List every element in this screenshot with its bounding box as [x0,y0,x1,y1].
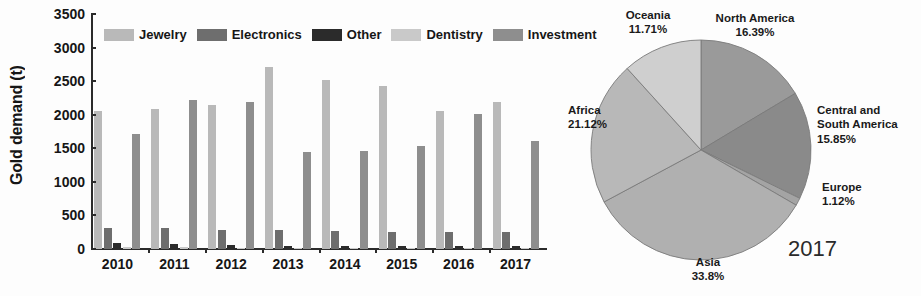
pie-chart-svg [560,0,921,296]
bar-electronics-2016 [445,232,453,249]
y-axis-label: Gold demand (t) [2,0,32,250]
bar-plot-area [91,14,546,249]
bar-dentistry-2016 [464,248,472,250]
bar-other-2012 [227,245,235,249]
bar-jewelry-2011 [151,109,159,249]
bar-jewelry-2016 [436,111,444,249]
x-tick-mark-2012 [205,248,207,253]
bar-jewelry-2012 [208,105,216,249]
bar-electronics-2015 [388,232,396,249]
bar-jewelry-2014 [322,80,330,249]
legend-swatch-jewelry [104,29,134,41]
y-tick-mark-1500 [91,147,96,149]
bar-jewelry-2017 [493,102,501,249]
x-tick-label-2016: 2016 [443,256,474,272]
pie-label-europe-name: Europe [822,180,912,194]
bar-investment-2014 [360,151,368,249]
x-tick-mark-2016 [432,248,434,253]
x-tick-label-2011: 2011 [159,256,189,272]
legend-swatch-electronics [197,29,227,41]
pie-label-central-south-america-name-2: South America [817,117,921,131]
bar-electronics-2014 [331,231,339,249]
pie-label-oceania: Oceania 11.71% [598,8,698,37]
x-tick-mark-2011 [148,248,150,253]
legend-label-dentistry: Dentistry [426,27,482,42]
bar-chart-panel: Gold demand (t) 050010001500200025003000… [0,0,560,296]
pie-chart-panel: Oceania 11.71% North America 16.39% Cent… [560,0,921,296]
pie-label-asia: Asia 33.8% [670,255,746,284]
bar-other-2014 [341,246,349,249]
y-tick-mark-1000 [91,181,96,183]
legend-item-electronics[interactable]: Electronics [197,27,302,42]
legend-swatch-investment [493,29,523,41]
bar-investment-2015 [417,146,425,249]
bar-investment-2012 [246,102,254,249]
pie-label-north-america-name: North America [695,11,815,25]
legend-item-other[interactable]: Other [312,27,382,42]
x-tick-label-2013: 2013 [272,256,303,272]
bar-electronics-2012 [218,230,226,249]
y-tick-mark-500 [91,214,96,216]
pie-label-oceania-value: 11.71% [598,22,698,36]
y-tick-label-1500: 1500 [54,141,91,155]
bar-dentistry-2014 [350,248,358,250]
y-tick-label-1000: 1000 [54,175,91,189]
legend-label-other: Other [347,27,382,42]
pie-label-north-america: North America 16.39% [695,11,815,40]
bar-investment-2013 [303,152,311,249]
pie-label-north-america-value: 16.39% [695,25,815,39]
bar-jewelry-2015 [379,86,387,249]
y-tick-mark-3500 [91,13,96,15]
y-tick-label-3500: 3500 [54,7,91,21]
bar-electronics-2011 [161,228,169,249]
bar-jewelry-2013 [265,67,273,249]
x-tick-mark-2013 [262,248,264,253]
x-tick-label-2017: 2017 [500,256,531,272]
bar-dentistry-2015 [407,248,415,250]
y-tick-mark-2000 [91,114,96,116]
y-tick-mark-0 [91,248,96,250]
x-tick-mark-2017 [489,248,491,253]
y-tick-label-0: 0 [77,242,91,256]
pie-label-central-south-america-name-1: Central and [817,103,921,117]
y-tick-label-500: 500 [62,208,91,222]
bar-dentistry-2011 [180,247,188,249]
bar-investment-2016 [474,114,482,249]
bar-other-2013 [284,246,292,249]
legend-item-dentistry[interactable]: Dentistry [391,27,482,42]
y-tick-label-2000: 2000 [54,108,91,122]
bar-investment-2010 [132,134,140,249]
bar-dentistry-2017 [521,248,529,250]
legend-item-jewelry[interactable]: Jewelry [104,27,187,42]
y-tick-label-2500: 2500 [54,74,91,88]
y-tick-mark-2500 [91,80,96,82]
pie-label-central-south-america-value: 15.85% [817,132,921,146]
pie-label-africa: Africa 21.12% [568,103,648,132]
bar-electronics-2010 [104,228,112,249]
bar-other-2016 [455,246,463,249]
bar-dentistry-2010 [123,247,131,249]
x-tick-mark-2014 [319,248,321,253]
pie-label-central-south-america: Central and South America 15.85% [817,103,921,146]
bar-electronics-2017 [502,232,510,249]
x-tick-mark-2015 [375,248,377,253]
bar-other-2011 [170,244,178,249]
x-tick-label-2014: 2014 [329,256,360,272]
legend-label-electronics: Electronics [232,27,302,42]
pie-label-asia-name: Asia [670,255,746,269]
x-tick-label-2010: 2010 [102,256,133,272]
bar-other-2010 [113,243,121,249]
bar-electronics-2013 [275,230,283,249]
bar-other-2017 [512,246,520,249]
pie-label-africa-name: Africa [568,103,648,117]
bar-investment-2011 [189,100,197,249]
bar-dentistry-2012 [237,248,245,250]
pie-label-africa-value: 21.12% [568,117,648,131]
x-tick-label-2012: 2012 [216,256,247,272]
y-tick-label-3000: 3000 [54,41,91,55]
y-tick-mark-3000 [91,47,96,49]
pie-label-europe-value: 1.12% [822,194,912,208]
pie-year-label: 2017 [788,236,837,262]
bar-dentistry-2013 [294,248,302,250]
pie-label-asia-value: 33.8% [670,269,746,283]
